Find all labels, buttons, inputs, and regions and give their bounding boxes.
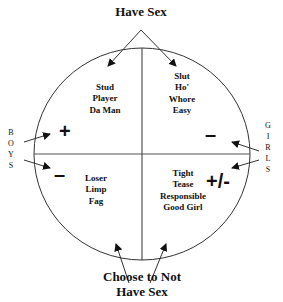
arrow-boys-upper [24,134,50,142]
girls-letter: L [263,153,273,164]
quadrant-line: Ho' [142,82,222,93]
sign-bottom-left: – [54,163,65,186]
quadrant-line: Good Girl [148,202,218,213]
sign-bottom-right: +/- [206,170,230,193]
sign-top-right: – [205,123,216,146]
boys-label: B O Y S [6,127,16,171]
quadrant-line: Easy [142,105,222,116]
arrow-girls-upper [232,142,259,151]
quadrant-line: Player [65,93,145,104]
quadrant-top-right-text: Slut Ho' Whore Easy [142,71,222,116]
quadrant-line: Da Man [65,105,145,116]
arrow-girls-lower [232,160,259,168]
quadrant-line: Limp [56,184,136,195]
girls-label: G I R L S [263,120,273,175]
quadrant-line: Slut [142,71,222,82]
quadrant-line: Stud [65,82,145,93]
diagram-graphic [0,0,283,302]
girls-letter: R [263,142,273,153]
top-label: Have Sex [91,4,191,20]
bottom-label-line: Have Sex [81,285,203,300]
boys-letter: O [6,138,16,149]
quadrant-line: Whore [142,94,222,105]
quadrant-line: Fag [56,196,136,207]
boys-letter: S [6,160,16,171]
girls-letter: S [263,164,273,175]
girls-letter: I [263,131,273,142]
boys-letter: B [6,127,16,138]
quadrant-bottom-left-text: Loser Limp Fag [56,173,136,207]
bottom-label: Choose to Not Have Sex [81,270,203,300]
arrow-boys-lower [24,160,50,168]
quadrant-top-left-text: Stud Player Da Man [65,82,145,116]
quadrant-line: Loser [56,173,136,184]
girls-letter: G [263,120,273,131]
bottom-label-line: Choose to Not [81,270,203,285]
sign-top-left: + [59,120,71,143]
boys-letter: Y [6,149,16,160]
